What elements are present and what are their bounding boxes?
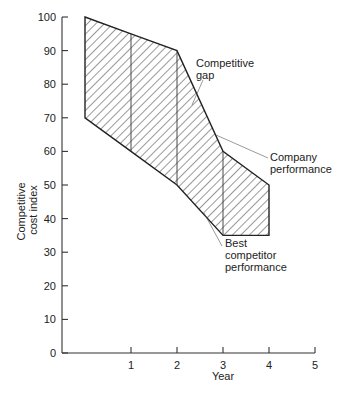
y-tick-label: 70 — [44, 112, 56, 124]
x-tick-label: 2 — [174, 359, 180, 371]
annotation-competitor-line2: competitor — [225, 249, 277, 261]
plot-area — [85, 17, 269, 235]
competitive-gap-chart: 010203040506070809010012345 Competitive … — [0, 0, 340, 396]
x-tick-label: 5 — [312, 359, 318, 371]
y-tick-label: 60 — [44, 145, 56, 157]
annotation-competitor-line1: Best — [225, 237, 247, 249]
annotation-competitive-gap: Competitive gap — [196, 57, 257, 81]
y-tick-label: 50 — [44, 179, 56, 191]
annotation-gap-line1: Competitive — [196, 57, 254, 69]
annotation-competitor-line3: performance — [225, 261, 287, 273]
x-axis-label: Year — [212, 370, 235, 382]
y-axis-label: Competitive cost index — [15, 179, 39, 240]
y-tick-label: 90 — [44, 45, 56, 57]
x-tick-label: 1 — [128, 359, 134, 371]
y-tick-label: 10 — [44, 313, 56, 325]
y-tick-label: 40 — [44, 213, 56, 225]
annotation-company-line2: performance — [270, 163, 332, 175]
y-tick-label: 30 — [44, 246, 56, 258]
annotation-gap-line2: gap — [196, 69, 214, 81]
y-axis-label-line2: cost index — [27, 185, 39, 235]
y-axis-label-line1: Competitive — [15, 182, 27, 240]
y-tick-label: 20 — [44, 280, 56, 292]
annotation-company-performance: Company performance — [270, 151, 332, 175]
annotation-company-line1: Company — [270, 151, 318, 163]
x-tick-label: 4 — [266, 359, 272, 371]
annotation-best-competitor: Best competitor performance — [225, 237, 287, 273]
y-tick-label: 100 — [38, 11, 56, 23]
y-tick-label: 80 — [44, 78, 56, 90]
y-tick-label: 0 — [50, 347, 56, 359]
